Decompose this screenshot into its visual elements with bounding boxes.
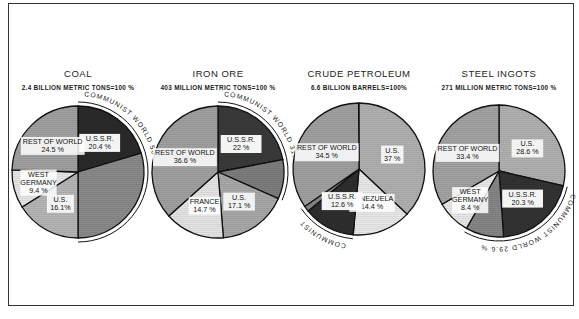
pie-charts-canvas: U.S.S.R.20.4 %U.S.16.1%WESTGERMANY9.4 %R… <box>0 0 579 319</box>
slice-label: 28.6 % <box>516 147 539 156</box>
slice-label: 20.3 % <box>511 198 534 207</box>
slice-label: 8.4 % <box>461 203 480 212</box>
slice-label: 37 % <box>384 154 401 163</box>
slice-label: 14.4 % <box>361 202 384 211</box>
slice-label: 33.4 % <box>456 152 479 161</box>
slice-label: 36.6 % <box>174 156 197 165</box>
slice-label: 16.1% <box>50 203 71 212</box>
slice-label: 20.4 % <box>89 142 112 151</box>
pie-iron-ore: U.S.S.R.22 %U.S.17.1 %FRANCE14.7 %REST O… <box>152 90 300 238</box>
slice-label: 17.1 % <box>228 201 251 210</box>
slice-label: 14.7 % <box>193 205 216 214</box>
slice-label: 12.6 % <box>331 200 354 209</box>
slice-label: 34.5 % <box>316 151 339 160</box>
slice-label: 9.4 % <box>29 186 48 195</box>
pie-steel-ingots: U.S.28.6 %U.S.S.R.20.3 %WESTGERMANY8.4 %… <box>433 105 577 253</box>
pie-coal: U.S.S.R.20.4 %U.S.16.1%WESTGERMANY9.4 %R… <box>12 90 160 242</box>
slice-label: 24.5 % <box>42 145 65 154</box>
slice-label: 22 % <box>233 143 250 152</box>
